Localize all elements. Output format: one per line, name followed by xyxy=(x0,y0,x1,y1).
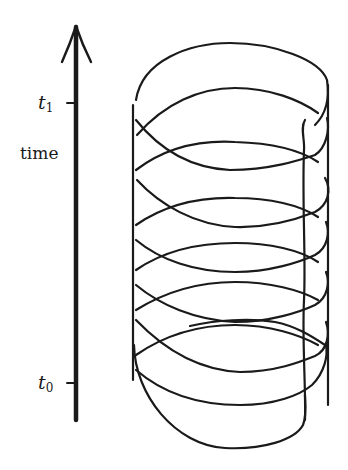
tick-label-t1: t1 xyxy=(38,93,53,114)
spacetime-loop-diagram xyxy=(0,0,348,470)
tick-label-base: t xyxy=(38,371,46,393)
curve-arc xyxy=(136,325,318,355)
axis-title: time xyxy=(20,145,58,162)
curve-arc xyxy=(136,222,328,272)
tick-label-subscript: 1 xyxy=(46,101,54,115)
curve-arc xyxy=(136,272,328,322)
curve-arc xyxy=(136,282,318,310)
tick-label-t0: t0 xyxy=(38,373,53,394)
curve-arc xyxy=(137,88,318,135)
curve-arc xyxy=(136,345,327,405)
tick-label-subscript: 0 xyxy=(46,381,54,395)
helical-curve xyxy=(134,43,328,448)
curve-arc xyxy=(137,178,328,227)
curve-arc xyxy=(136,243,318,270)
curve-arc xyxy=(136,118,328,170)
time-axis xyxy=(62,26,91,420)
curve-bottom-arc xyxy=(134,345,306,448)
curve-arc xyxy=(136,320,328,372)
inner-right-line xyxy=(303,120,305,420)
curve-top-arc xyxy=(136,43,328,125)
tick-label-base: t xyxy=(38,91,46,113)
